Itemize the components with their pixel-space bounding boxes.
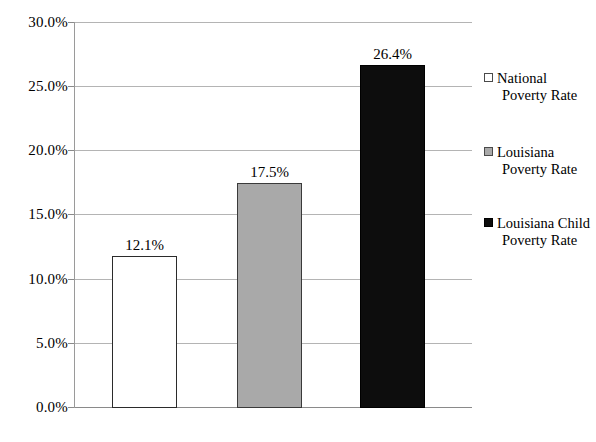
legend-label-louisiana-child-line1: Louisiana Child [497, 215, 596, 232]
bar-louisiana-child-poverty-rate[interactable] [360, 65, 425, 408]
gray-square-icon [484, 147, 493, 156]
bar-label-national: 12.1% [112, 238, 177, 253]
y-axis-label-20: 20.0% [2, 143, 68, 158]
black-square-icon [484, 218, 493, 227]
y-tick-20 [68, 150, 74, 151]
bar-label-louisiana-child: 26.4% [360, 47, 425, 62]
y-axis-line [74, 22, 75, 408]
bar-chart: 30.0% 25.0% 20.0% 15.0% 10.0% 5.0% 0.0% … [0, 0, 596, 442]
y-axis-label-0: 0.0% [2, 400, 68, 415]
legend-label-national-line1: National [497, 70, 596, 87]
y-axis-label-10: 10.0% [2, 272, 68, 287]
y-tick-10 [68, 279, 74, 280]
bar-national-poverty-rate[interactable] [112, 256, 177, 408]
legend-label-louisiana-line2: Poverty Rate [502, 161, 596, 178]
bar-louisiana-poverty-rate[interactable] [237, 183, 302, 408]
legend-label-louisiana-line1: Louisiana [497, 144, 596, 161]
y-axis-label-5: 5.0% [2, 336, 68, 351]
y-tick-25 [68, 86, 74, 87]
y-axis-label-25: 25.0% [2, 79, 68, 94]
y-axis-label-30: 30.0% [2, 15, 68, 30]
y-axis-labels: 30.0% 25.0% 20.0% 15.0% 10.0% 5.0% 0.0% [0, 0, 68, 442]
legend-label-national-line2: Poverty Rate [502, 87, 596, 104]
y-tick-15 [68, 214, 74, 215]
y-tick-30 [68, 22, 74, 23]
y-axis-label-15: 15.0% [2, 207, 68, 222]
bar-label-louisiana: 17.5% [237, 165, 302, 180]
legend-label-louisiana-child-line2: Poverty Rate [502, 232, 596, 249]
gridline-30 [74, 22, 472, 23]
y-tick-5 [68, 343, 74, 344]
y-tick-0 [68, 407, 74, 408]
white-square-icon [484, 73, 493, 82]
